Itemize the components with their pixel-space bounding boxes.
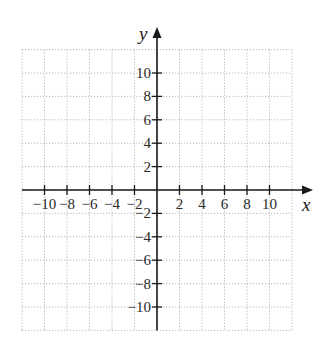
x-tick-label: −6 <box>82 196 98 212</box>
x-tick-label: 4 <box>198 196 206 212</box>
y-tick-label: 4 <box>144 135 152 151</box>
y-tick-label: 6 <box>144 112 152 128</box>
y-tick-label: −4 <box>135 229 151 245</box>
x-tick-label: −10 <box>33 196 56 212</box>
x-tick-label: −4 <box>104 196 120 212</box>
x-tick-label: 10 <box>262 196 277 212</box>
y-tick-label: 2 <box>144 159 152 175</box>
y-axis-arrow-icon <box>153 27 162 38</box>
y-tick-label: −6 <box>135 252 151 268</box>
coordinate-plane: −10−8−6−4−2246810108642−2−4−6−8−10 x y <box>0 0 327 352</box>
y-tick-label: 10 <box>136 65 151 81</box>
y-tick-label: 8 <box>144 88 152 104</box>
x-tick-label: 6 <box>221 196 229 212</box>
y-tick-label: −8 <box>135 276 151 292</box>
y-tick-label: −2 <box>135 205 151 221</box>
y-tick-label: −10 <box>128 299 151 315</box>
x-tick-label: 8 <box>243 196 251 212</box>
y-axis-label: y <box>137 23 148 44</box>
x-axis-label: x <box>301 194 311 215</box>
x-tick-label: −8 <box>59 196 75 212</box>
x-tick-label: 2 <box>176 196 184 212</box>
